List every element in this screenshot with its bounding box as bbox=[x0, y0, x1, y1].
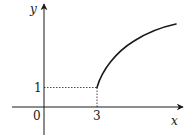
graph-canvas: y x 0 3 1 bbox=[0, 0, 194, 138]
x-tick-label-3: 3 bbox=[93, 109, 101, 123]
function-graph: y x 0 3 1 bbox=[0, 0, 194, 138]
y-axis-label: y bbox=[29, 2, 37, 16]
function-curve bbox=[97, 24, 176, 88]
y-tick-label-1: 1 bbox=[34, 81, 42, 95]
origin-label: 0 bbox=[33, 109, 41, 123]
x-axis-label: x bbox=[171, 114, 178, 128]
